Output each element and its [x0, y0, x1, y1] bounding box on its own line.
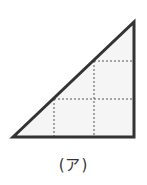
figure-label: (ア) — [0, 153, 147, 174]
